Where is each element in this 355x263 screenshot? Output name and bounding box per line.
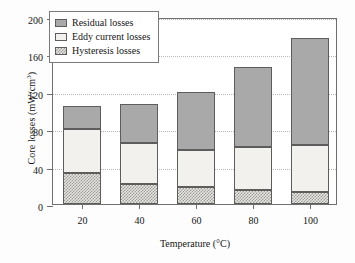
x-axis-tick: 60 <box>196 204 197 209</box>
y-axis-tick: 40 <box>47 169 53 170</box>
legend-item: Hysteresis losses <box>55 44 150 58</box>
stacked-bar <box>291 38 329 204</box>
stacked-bar <box>177 92 215 204</box>
white-swatch <box>55 33 67 41</box>
x-axis-tick-label: 40 <box>135 215 145 226</box>
y-axis-tick-label: 40 <box>33 164 43 175</box>
y-axis-tick-label: 160 <box>28 52 43 63</box>
x-axis-tick-label: 60 <box>192 215 202 226</box>
x-axis-tick-label: 80 <box>249 215 259 226</box>
y-axis-title-tail: ) <box>26 72 37 75</box>
x-axis-tick: 100 <box>310 204 311 209</box>
legend-item-label: Residual losses <box>72 18 133 28</box>
bar-segment-eddy-current <box>234 147 272 190</box>
y-axis-tick: 0 <box>47 206 53 207</box>
legend-item: Residual losses <box>55 16 150 30</box>
stacked-bar <box>63 106 101 204</box>
stacked-bar <box>234 67 272 204</box>
bar-segment-hysteresis <box>291 192 329 204</box>
y-axis-tick-label: 80 <box>33 127 43 138</box>
bar-segment-eddy-current <box>63 129 101 173</box>
x-axis-tick: 80 <box>253 204 254 209</box>
x-axis-tick: 20 <box>82 204 83 209</box>
y-axis-tick: 80 <box>47 131 53 132</box>
bar-segment-residual <box>120 104 158 143</box>
bar-segment-residual <box>234 67 272 147</box>
y-axis-tick-label: 120 <box>28 89 43 100</box>
checkered-swatch <box>55 47 67 55</box>
y-axis-tick-label: 0 <box>38 202 43 213</box>
y-axis-tick: 120 <box>47 94 53 95</box>
chart-legend: Residual lossesEddy current lossesHyster… <box>49 11 159 63</box>
bar-segment-eddy-current <box>120 143 158 184</box>
legend-item-label: Eddy current losses <box>72 32 150 42</box>
bar-segment-eddy-current <box>291 145 329 192</box>
bar-segment-eddy-current <box>177 150 215 187</box>
x-axis-tick: 40 <box>139 204 140 209</box>
legend-item: Eddy current losses <box>55 30 150 44</box>
x-axis-tick-label: 20 <box>78 215 88 226</box>
core-losses-stacked-bar-chart: Core losses (mW/cm3) Temperature (°C) 04… <box>0 0 355 263</box>
bar-segment-residual <box>63 106 101 129</box>
y-axis-tick-label: 200 <box>28 15 43 26</box>
legend-item-label: Hysteresis losses <box>72 46 140 56</box>
stacked-bar <box>120 104 158 204</box>
bar-segment-hysteresis <box>234 190 272 204</box>
bar-segment-hysteresis <box>63 173 101 204</box>
bar-segment-hysteresis <box>120 184 158 204</box>
bar-segment-residual <box>177 92 215 150</box>
x-axis-tick-label: 100 <box>303 215 318 226</box>
bar-segment-residual <box>291 38 329 146</box>
x-axis-title: Temperature (°C) <box>52 238 338 249</box>
y-axis-title-superscript: 3 <box>25 75 33 79</box>
bar-segment-hysteresis <box>177 187 215 204</box>
solid-gray-swatch <box>55 19 67 27</box>
